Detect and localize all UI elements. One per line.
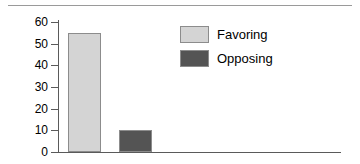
x-axis-line <box>58 152 341 153</box>
y-tick-mark-30 <box>51 87 58 88</box>
bar-chart-figure: 60 50 40 30 20 10 0 Favoring Opposing <box>0 0 360 164</box>
y-tick-label-wrap-50: 50 <box>0 38 48 50</box>
bar-opposing <box>119 130 152 152</box>
y-tick-label-wrap-30: 30 <box>0 81 48 93</box>
legend-swatch-opposing <box>180 50 209 67</box>
y-tick-mark-50 <box>51 44 58 45</box>
top-divider-rule <box>8 5 352 6</box>
y-tick-label-20: 20 <box>2 103 48 115</box>
y-axis-line <box>58 20 59 153</box>
y-tick-label-10: 10 <box>2 124 48 136</box>
y-tick-label-50: 50 <box>2 38 48 50</box>
y-tick-label-40: 40 <box>2 59 48 71</box>
y-tick-label-30: 30 <box>2 81 48 93</box>
y-tick-mark-60 <box>51 22 58 23</box>
y-tick-mark-10 <box>51 130 58 131</box>
bar-favoring <box>68 33 101 152</box>
legend-label-opposing: Opposing <box>217 50 273 67</box>
y-tick-label-wrap-20: 20 <box>0 103 48 115</box>
legend-label-favoring: Favoring <box>217 26 268 43</box>
y-tick-mark-40 <box>51 65 58 66</box>
y-tick-mark-20 <box>51 109 58 110</box>
y-tick-mark-0 <box>51 152 58 153</box>
y-tick-label-60: 60 <box>2 16 48 28</box>
y-tick-label-wrap-0: 0 <box>0 146 48 158</box>
y-tick-label-wrap-10: 10 <box>0 124 48 136</box>
y-tick-label-wrap-60: 60 <box>0 16 48 28</box>
y-tick-label-wrap-40: 40 <box>0 59 48 71</box>
y-tick-label-0: 0 <box>2 146 48 158</box>
legend-swatch-favoring <box>180 26 209 43</box>
